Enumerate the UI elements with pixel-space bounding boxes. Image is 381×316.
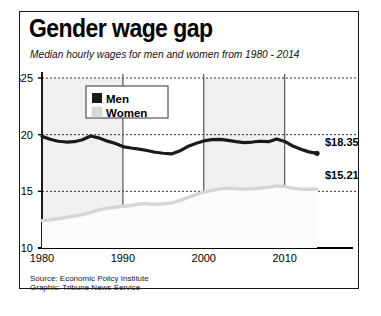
graphic-credit-line: Graphic: Tribune News Service [30, 283, 149, 292]
line-chart: $252015101980199020002010$18.35$15.21Men… [20, 12, 360, 290]
men-end-value-label: $18.35 [325, 136, 359, 148]
chart-footer: Source: Economic Policy Institute Graphi… [30, 274, 149, 293]
y-tick-label-20: 20 [21, 129, 33, 141]
chart-plot-area: $252015101980199020002010$18.35$15.21Men… [20, 12, 360, 290]
legend-label-women: Women [106, 107, 147, 119]
y-tick-label-15: 15 [21, 185, 33, 197]
x-tick-label-1990: 1990 [111, 252, 135, 264]
x-tick-label-2010: 2010 [272, 252, 296, 264]
x-tick-label-1980: 1980 [30, 252, 54, 264]
legend-swatch-men [92, 93, 102, 103]
source-line: Source: Economic Policy Institute [30, 274, 149, 283]
series-endpoint-men [314, 151, 319, 156]
legend-label-men: Men [106, 93, 129, 105]
x-tick-label-2000: 2000 [192, 252, 216, 264]
y-tick-label-25: $25 [20, 72, 33, 84]
women-end-value-label: $15.21 [325, 169, 359, 181]
chart-card: Gender wage gap Median hourly wages for … [19, 11, 359, 289]
legend-swatch-women [92, 107, 102, 117]
